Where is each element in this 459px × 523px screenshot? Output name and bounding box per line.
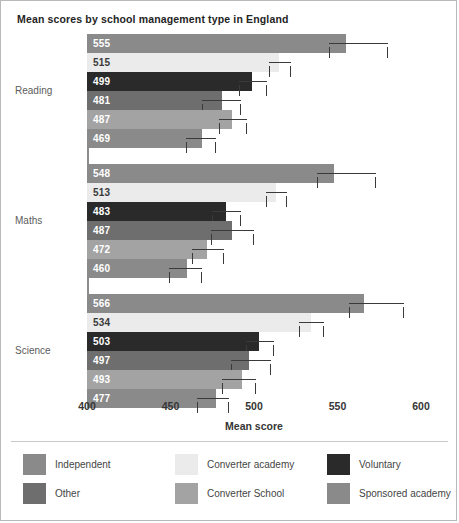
- bar-group: 548513483487472460: [87, 164, 421, 278]
- legend-swatch: [23, 454, 46, 475]
- error-bar: [299, 322, 324, 323]
- error-bar: [197, 398, 229, 399]
- bar-row[interactable]: 566: [87, 294, 421, 313]
- bar-row[interactable]: 481: [87, 91, 421, 110]
- error-bar: [329, 43, 387, 44]
- error-bar-cap-high: [201, 272, 202, 283]
- bar[interactable]: [87, 313, 311, 332]
- error-bar: [266, 192, 288, 193]
- x-axis-ticks: 400450500550600: [87, 400, 421, 416]
- bar-row[interactable]: 548: [87, 164, 421, 183]
- legend-item[interactable]: Converter School: [175, 481, 284, 505]
- chart-figure: Mean scores by school management type in…: [0, 0, 457, 521]
- error-bar-cap-high: [215, 142, 216, 153]
- legend-item[interactable]: Other: [23, 481, 80, 505]
- x-tick-label: 600: [412, 400, 430, 412]
- bar-row[interactable]: 503: [87, 332, 421, 351]
- x-axis-label: Mean score: [87, 420, 421, 432]
- bar-row[interactable]: 472: [87, 240, 421, 259]
- legend-label: Sponsored academy: [359, 488, 451, 499]
- error-bar: [239, 81, 267, 82]
- legend-label: Converter academy: [207, 459, 294, 470]
- bar-row[interactable]: 493: [87, 370, 421, 389]
- bar-row[interactable]: 555: [87, 34, 421, 53]
- error-bar: [212, 211, 240, 212]
- x-tick-label: 550: [329, 400, 347, 412]
- legend-swatch: [23, 483, 46, 504]
- plot-area: 5555154994814874695485134834874724605665…: [87, 34, 421, 397]
- bar-row[interactable]: 499: [87, 72, 421, 91]
- legend-swatch: [175, 454, 198, 475]
- bar[interactable]: [87, 34, 346, 53]
- legend-label: Converter School: [207, 488, 284, 499]
- bar-row[interactable]: 487: [87, 221, 421, 240]
- bar[interactable]: [87, 164, 334, 183]
- legend-item[interactable]: Independent: [23, 452, 111, 476]
- legend-item[interactable]: Voluntary: [327, 452, 401, 476]
- bar[interactable]: [87, 294, 364, 313]
- category-label: Maths: [15, 215, 85, 226]
- legend-item[interactable]: Converter academy: [175, 452, 294, 476]
- bar-row[interactable]: 469: [87, 129, 421, 148]
- bar-row[interactable]: 487: [87, 110, 421, 129]
- error-bar: [231, 360, 271, 361]
- bar[interactable]: [87, 370, 242, 389]
- bar[interactable]: [87, 202, 226, 221]
- x-tick-label: 400: [78, 400, 96, 412]
- bar[interactable]: [87, 53, 279, 72]
- error-bar: [246, 341, 274, 342]
- bar-row[interactable]: 534: [87, 313, 421, 332]
- bar[interactable]: [87, 110, 232, 129]
- error-bar-cap-low: [186, 142, 187, 153]
- bar-group: 566534503497493477: [87, 294, 421, 408]
- error-bar: [269, 62, 291, 63]
- category-label: Science: [15, 345, 85, 356]
- error-bar: [202, 100, 240, 101]
- chart-title: Mean scores by school management type in…: [17, 13, 289, 25]
- error-bar: [317, 173, 375, 174]
- error-bar: [192, 249, 224, 250]
- bar[interactable]: [87, 183, 276, 202]
- bar-row[interactable]: 483: [87, 202, 421, 221]
- legend-divider: [11, 441, 448, 442]
- error-bar-cap-low: [169, 272, 170, 283]
- category-label: Reading: [15, 85, 85, 96]
- legend-label: Other: [55, 488, 80, 499]
- error-bar: [219, 119, 247, 120]
- x-tick-label: 500: [245, 400, 263, 412]
- legend-label: Independent: [55, 459, 111, 470]
- bar-row[interactable]: 513: [87, 183, 421, 202]
- bar[interactable]: [87, 240, 207, 259]
- legend-item[interactable]: Sponsored academy: [327, 481, 451, 505]
- bar[interactable]: [87, 351, 249, 370]
- bar[interactable]: [87, 332, 259, 351]
- x-tick-label: 450: [162, 400, 180, 412]
- bar-row[interactable]: 515: [87, 53, 421, 72]
- chart-legend: IndependentConverter academyVoluntaryOth…: [23, 452, 443, 508]
- bar-row[interactable]: 497: [87, 351, 421, 370]
- legend-swatch: [327, 454, 350, 475]
- error-bar: [222, 379, 255, 380]
- error-bar: [186, 138, 216, 139]
- error-bar: [169, 268, 202, 269]
- error-bar: [349, 303, 404, 304]
- error-bar: [211, 230, 254, 231]
- bar[interactable]: [87, 72, 252, 91]
- legend-label: Voluntary: [359, 459, 401, 470]
- bar-row[interactable]: 460: [87, 259, 421, 278]
- legend-swatch: [175, 483, 198, 504]
- legend-swatch: [327, 483, 350, 504]
- bar-group: 555515499481487469: [87, 34, 421, 148]
